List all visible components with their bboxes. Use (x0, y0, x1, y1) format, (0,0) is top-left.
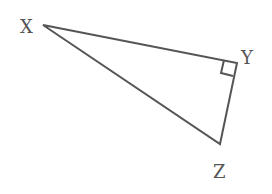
triangle-diagram: X Y Z (0, 0, 272, 194)
triangle-xyz (43, 25, 237, 144)
vertex-label-x: X (20, 16, 33, 37)
vertex-label-y: Y (240, 47, 254, 68)
vertex-label-z: Z (213, 161, 226, 182)
